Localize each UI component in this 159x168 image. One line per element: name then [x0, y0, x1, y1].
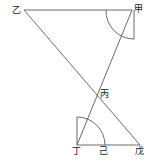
diagram-lines: [0, 0, 159, 168]
arc-at-ding: [77, 117, 105, 145]
label-ding: 丁: [72, 147, 81, 156]
label-wu: 戊: [135, 147, 144, 156]
label-ji: 己: [99, 147, 108, 156]
segment-jia-ding: [77, 10, 132, 145]
label-bing: 丙: [100, 90, 109, 99]
label-yi: 乙: [12, 6, 21, 15]
segment-yi-wu: [24, 10, 140, 145]
label-jia: 甲: [134, 5, 143, 14]
